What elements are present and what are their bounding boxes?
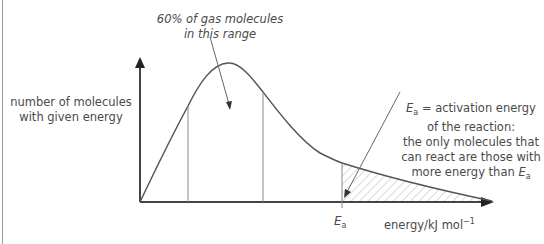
ea-definition-text: = activation energy	[418, 101, 536, 115]
range-annotation-line2: in this range	[150, 27, 290, 42]
range-annotation: 60% of gas molecules in this range	[150, 12, 290, 42]
x-axis-label: energy/kJ mol−1	[384, 214, 475, 233]
y-axis-arrow-icon	[135, 57, 145, 68]
y-axis-label-line1: number of molecules	[4, 95, 138, 110]
ea-tick-symbol: E	[334, 214, 342, 228]
ea-symbol: E	[518, 165, 525, 179]
ea-annotation-line2: of the reaction:	[398, 120, 544, 135]
ea-annotation-line5-text: more energy than	[411, 165, 518, 179]
ea-subscript: a	[526, 172, 531, 181]
ea-annotation-line4: can react are those with	[398, 150, 544, 165]
ea-annotation-line3: the only molecules that	[398, 135, 544, 150]
ea-annotation-line5: more energy than Ea	[398, 165, 544, 184]
range-pointer-arrow-icon	[226, 101, 232, 110]
ea-annotation-line1: Ea = activation energy	[398, 101, 544, 120]
ea-annotation: Ea = activation energy of the reaction: …	[398, 101, 544, 184]
range-annotation-line1: 60% of gas molecules	[150, 12, 290, 27]
ea-tick-subscript: a	[342, 221, 347, 230]
x-axis-label-text: energy/kJ mol	[384, 218, 463, 232]
y-axis-label: number of molecules with given energy	[4, 95, 138, 125]
x-axis-label-exponent: −1	[463, 217, 475, 226]
ea-tick-label: Ea	[334, 214, 347, 233]
y-axis-label-line2: with given energy	[4, 110, 138, 125]
